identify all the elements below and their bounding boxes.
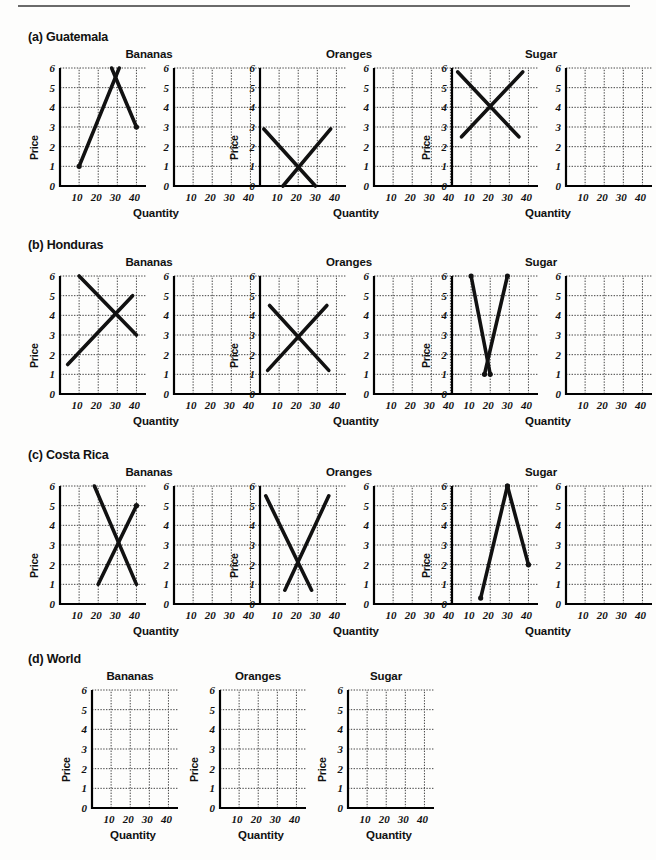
y-tick-label: 4 <box>363 519 370 531</box>
x-axis-label-honduras-sugar: Quantity <box>430 415 656 427</box>
chart-group-guatemala-sugar: SugarPrice012345610203040012345610203040… <box>420 46 656 219</box>
y-tick-label: 6 <box>364 270 370 282</box>
y-tick-label: 1 <box>50 160 56 172</box>
y-tick-label: 1 <box>164 160 170 172</box>
x-tick-label: 20 <box>204 609 217 621</box>
y-tick-label: 5 <box>338 704 344 716</box>
plot-guatemala-oranges-given[interactable]: 012345610203040 <box>240 62 350 208</box>
plot-guatemala-bananas-given[interactable]: 012345610203040 <box>40 62 150 208</box>
y-tick-label: 2 <box>337 763 344 775</box>
y-tick-label: 0 <box>250 180 256 192</box>
y-tick-label: 5 <box>50 500 56 512</box>
plot-world-bananas-given[interactable]: 012345610203040 <box>72 684 182 830</box>
plot-world-sugar-given[interactable]: 012345610203040 <box>328 684 438 830</box>
plot-costa-rica-bananas-given[interactable]: 012345610203040 <box>40 480 150 626</box>
plot-guatemala-sugar-blank[interactable]: 012345610203040 <box>546 62 656 208</box>
plot-pair-world-oranges: Price012345610203040 <box>188 684 322 830</box>
x-tick-label: 20 <box>596 399 609 411</box>
x-tick-label: 20 <box>404 191 417 203</box>
x-tick-label: 20 <box>596 191 609 203</box>
y-tick-label: 2 <box>81 763 88 775</box>
x-tick-label: 10 <box>232 813 244 825</box>
y-tick-label: 5 <box>250 290 256 302</box>
plot-costa-rica-sugar-blank[interactable]: 012345610203040 <box>546 480 656 626</box>
section-honduras: (b) HondurasBananasPrice0123456102030400… <box>0 238 648 429</box>
y-tick-label: 3 <box>49 329 56 341</box>
y-tick-label: 4 <box>49 519 56 531</box>
y-tick-label: 0 <box>556 598 562 610</box>
y-tick-label: 0 <box>50 388 56 400</box>
plot-honduras-bananas-given[interactable]: 012345610203040 <box>40 270 150 416</box>
x-tick-label: 40 <box>128 399 141 411</box>
curve-supply <box>285 496 329 590</box>
y-tick-label: 1 <box>164 578 170 590</box>
page-top-rule <box>18 5 630 7</box>
plot-world-bananas-given-canvas: 012345610203040 <box>72 684 182 830</box>
y-tick-label: 1 <box>250 160 256 172</box>
endpoint-dot <box>134 503 139 508</box>
y-tick-label: 2 <box>441 349 448 361</box>
plot-costa-rica-sugar-given[interactable]: 012345610203040 <box>432 480 542 626</box>
chart-row-costa-rica: BananasPrice0123456102030400123456102030… <box>0 464 648 639</box>
y-tick-label: 6 <box>364 62 370 74</box>
y-tick-label: 4 <box>337 723 344 735</box>
y-tick-label: 1 <box>556 368 562 380</box>
y-tick-label: 5 <box>250 82 256 94</box>
plot-honduras-oranges-given[interactable]: 012345610203040 <box>240 270 350 416</box>
x-tick-label: 40 <box>328 399 341 411</box>
commodity-title-world-sugar: Sugar <box>328 668 444 684</box>
y-tick-label: 2 <box>363 349 370 361</box>
y-tick-label: 1 <box>210 782 216 794</box>
y-tick-label: 2 <box>363 559 370 571</box>
y-tick-label: 2 <box>363 141 370 153</box>
x-tick-label: 20 <box>482 609 495 621</box>
plot-costa-rica-oranges-given[interactable]: 012345610203040 <box>240 480 350 626</box>
x-tick-label: 10 <box>464 609 476 621</box>
y-tick-label: 1 <box>442 578 448 590</box>
y-tick-label: 0 <box>442 180 448 192</box>
y-tick-label: 3 <box>163 539 170 551</box>
section-costa-rica: (c) Costa RicaBananasPrice01234561020304… <box>0 448 648 639</box>
y-tick-label: 1 <box>50 578 56 590</box>
y-tick-label: 0 <box>164 180 170 192</box>
plot-honduras-sugar-blank[interactable]: 012345610203040 <box>546 270 656 416</box>
y-tick-label: 0 <box>442 598 448 610</box>
y-tick-label: 5 <box>556 82 562 94</box>
x-tick-label: 20 <box>204 399 217 411</box>
y-tick-label: 6 <box>50 480 56 492</box>
x-tick-label: 20 <box>482 399 495 411</box>
y-tick-label: 1 <box>442 368 448 380</box>
y-tick-label: 4 <box>249 101 256 113</box>
x-tick-label: 20 <box>290 399 303 411</box>
y-tick-label: 6 <box>250 62 256 74</box>
y-tick-label: 6 <box>250 270 256 282</box>
y-tick-label: 0 <box>250 388 256 400</box>
y-tick-label: 3 <box>337 743 344 755</box>
y-tick-label: 2 <box>249 559 256 571</box>
y-tick-label: 1 <box>338 782 344 794</box>
y-tick-label: 3 <box>249 329 256 341</box>
y-axis-label-world-bananas: Price <box>60 757 72 782</box>
plot-guatemala-sugar-blank-canvas: 012345610203040 <box>546 62 656 208</box>
plot-costa-rica-sugar-blank-canvas: 012345610203040 <box>546 480 656 626</box>
x-tick-label: 20 <box>90 191 103 203</box>
y-tick-label: 5 <box>210 704 216 716</box>
x-tick-label: 20 <box>482 191 495 203</box>
y-tick-label: 4 <box>363 309 370 321</box>
y-tick-label: 1 <box>50 368 56 380</box>
x-tick-label: 10 <box>72 399 84 411</box>
y-tick-label: 0 <box>50 598 56 610</box>
chart-row-honduras: BananasPrice0123456102030400123456102030… <box>0 254 648 429</box>
curve-demand <box>94 486 136 584</box>
x-tick-label: 10 <box>272 191 284 203</box>
plot-guatemala-sugar-given[interactable]: 012345610203040 <box>432 62 542 208</box>
x-tick-label: 30 <box>615 609 628 621</box>
plot-world-oranges-given[interactable]: 012345610203040 <box>200 684 310 830</box>
y-tick-label: 4 <box>81 723 88 735</box>
x-tick-label: 40 <box>128 191 141 203</box>
plot-pair-world-bananas: Price012345610203040 <box>60 684 194 830</box>
y-tick-label: 4 <box>49 101 56 113</box>
y-tick-label: 5 <box>164 500 170 512</box>
plot-honduras-sugar-given[interactable]: 012345610203040 <box>432 270 542 416</box>
